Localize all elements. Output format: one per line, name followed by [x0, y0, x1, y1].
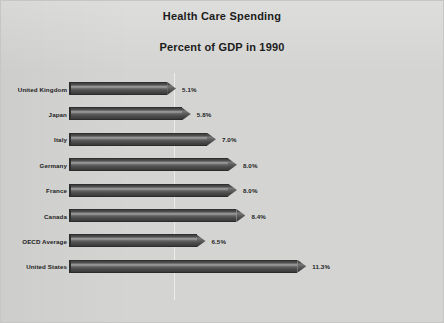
- value-label: 5.8%: [197, 110, 212, 117]
- bar-base-cap: [69, 158, 71, 171]
- bar: [69, 260, 306, 273]
- value-label: 8.4%: [251, 212, 266, 219]
- value-label: 8.0%: [243, 161, 258, 168]
- category-label: Canada: [44, 212, 67, 219]
- bar-row: Japan5.8%: [1, 107, 443, 120]
- chart-title: Health Care Spending: [1, 9, 443, 23]
- bar-body: [69, 260, 297, 273]
- category-label: United States: [26, 263, 67, 270]
- bar-tip: [167, 82, 176, 95]
- category-label: Japan: [49, 110, 67, 117]
- bar-row: Italy7.0%: [1, 133, 443, 146]
- bar-body: [69, 209, 236, 222]
- bar: [69, 133, 216, 146]
- bar-tip: [228, 158, 237, 171]
- bar-base-cap: [69, 133, 71, 146]
- category-label: France: [46, 187, 67, 194]
- value-label: 6.5%: [212, 237, 227, 244]
- chart-subtitle: Percent of GDP in 1990: [1, 40, 443, 54]
- bar-row: Canada8.4%: [1, 209, 443, 222]
- bar-body: [69, 82, 167, 95]
- bar-tip: [207, 133, 216, 146]
- chart-container: Health Care Spending Percent of GDP in 1…: [0, 0, 444, 323]
- bar-base-cap: [69, 184, 71, 197]
- bar: [69, 234, 206, 247]
- bar-tip: [297, 260, 306, 273]
- bar-body: [69, 158, 228, 171]
- bar-row: France8.0%: [1, 184, 443, 197]
- bar-tip: [197, 234, 206, 247]
- bar-base-cap: [69, 82, 71, 95]
- value-label: 7.0%: [222, 136, 237, 143]
- bar: [69, 209, 245, 222]
- chart-title-block: Health Care Spending Percent of GDP in 1…: [1, 9, 443, 54]
- bar: [69, 107, 191, 120]
- bar: [69, 184, 237, 197]
- bar-body: [69, 133, 207, 146]
- value-label: 11.3%: [312, 263, 330, 270]
- bar-row: OECD Average6.5%: [1, 234, 443, 247]
- bar-base-cap: [69, 107, 71, 120]
- bar-tip: [182, 107, 191, 120]
- category-label: Germany: [39, 161, 67, 168]
- bar: [69, 82, 176, 95]
- category-label: OECD Average: [22, 237, 67, 244]
- plot-area: United Kingdom5.1%Japan5.8%Italy7.0%Germ…: [1, 73, 443, 300]
- bar-tip: [236, 209, 245, 222]
- bar-base-cap: [69, 234, 71, 247]
- bar-row: United States11.3%: [1, 260, 443, 273]
- bar: [69, 158, 237, 171]
- bar-row: United Kingdom5.1%: [1, 82, 443, 95]
- bar-body: [69, 107, 182, 120]
- bar-base-cap: [69, 209, 71, 222]
- bar-body: [69, 184, 228, 197]
- bar-tip: [228, 184, 237, 197]
- value-label: 8.0%: [243, 187, 258, 194]
- value-label: 5.1%: [182, 85, 197, 92]
- bar-row: Germany8.0%: [1, 158, 443, 171]
- category-label: United Kingdom: [18, 85, 67, 92]
- bar-base-cap: [69, 260, 71, 273]
- bar-body: [69, 234, 197, 247]
- category-label: Italy: [54, 136, 67, 143]
